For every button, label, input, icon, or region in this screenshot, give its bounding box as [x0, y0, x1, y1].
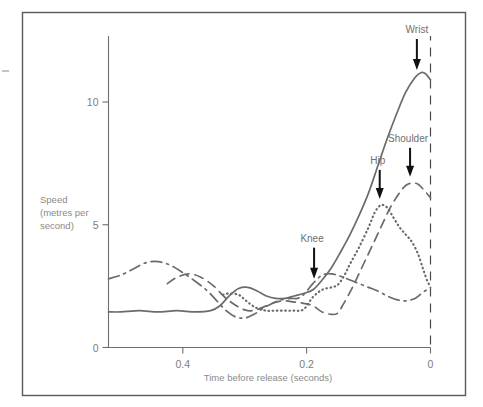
x-tick-label-0.2: 0.2	[299, 358, 314, 370]
annotation-arrow-head-knee	[310, 268, 318, 279]
x-tick-label-0: 0	[428, 358, 434, 370]
annotation-label-wrist: Wrist	[406, 24, 429, 35]
y-axis-title: Speed (metres per second)	[40, 194, 89, 231]
annotation-label-knee: Knee	[300, 233, 324, 244]
x-axis-title: Time before release (seconds)	[204, 372, 332, 383]
series-line-hip	[223, 205, 430, 311]
chart-figure: 05100.40.20WristShoulderHipKnee Speed (m…	[0, 0, 483, 407]
annotation-arrow-head-hip	[376, 188, 384, 199]
annotation-arrow-head-shoulder	[406, 166, 414, 177]
annotation-arrow-head-wrist	[413, 59, 421, 70]
chart-canvas: 05100.40.20WristShoulderHipKnee Speed (m…	[0, 0, 483, 407]
plot-area: 05100.40.20WristShoulderHipKnee	[87, 24, 434, 369]
y-axis-title-line-3: second)	[40, 220, 74, 231]
y-tick-label-0: 0	[93, 342, 99, 354]
y-axis-title-line-2: (metres per	[40, 207, 89, 218]
series-line-wrist	[109, 72, 431, 312]
x-tick-label-0.4: 0.4	[176, 358, 191, 370]
y-axis-title-line-1: Speed	[40, 194, 67, 205]
y-tick-label-10: 10	[87, 96, 99, 108]
figure-border	[23, 13, 466, 396]
series-line-knee	[109, 261, 431, 318]
y-tick-label-5: 5	[93, 219, 99, 231]
annotation-label-shoulder: Shoulder	[388, 133, 429, 144]
annotation-label-hip: Hip	[370, 155, 385, 166]
